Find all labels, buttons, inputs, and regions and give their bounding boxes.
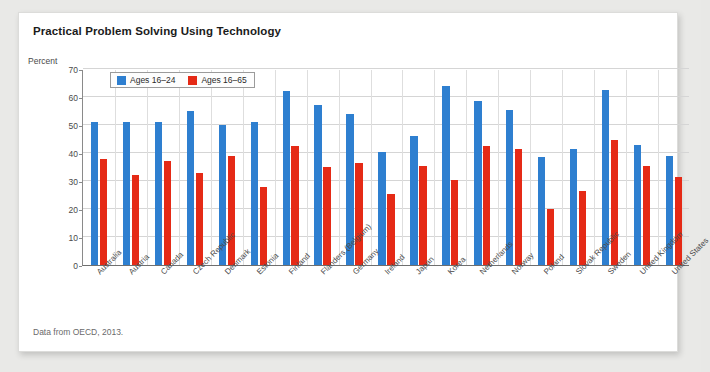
bar bbox=[260, 187, 267, 265]
legend-label: Ages 16–65 bbox=[201, 75, 246, 85]
y-axis-unit-label: Percent bbox=[28, 56, 57, 66]
bar bbox=[314, 105, 321, 265]
page-title: Practical Problem Solving Using Technolo… bbox=[33, 25, 281, 37]
y-axis-tick-label: 60 bbox=[69, 93, 78, 103]
bar bbox=[515, 149, 522, 265]
bar-group bbox=[562, 70, 594, 265]
bar-group bbox=[626, 70, 658, 265]
bar bbox=[155, 122, 162, 265]
bar bbox=[634, 145, 641, 265]
bar bbox=[123, 122, 130, 265]
bar-group bbox=[434, 70, 466, 265]
bar bbox=[283, 91, 290, 265]
bar-group bbox=[402, 70, 434, 265]
bar-group bbox=[275, 70, 307, 265]
plot-area bbox=[82, 70, 689, 266]
legend-swatch-red bbox=[188, 76, 197, 85]
y-axis-tick-labels: 010203040506070 bbox=[49, 70, 78, 266]
bar-group bbox=[307, 70, 339, 265]
bar bbox=[196, 173, 203, 265]
bar-group bbox=[115, 70, 147, 265]
chart-card: Practical Problem Solving Using Technolo… bbox=[18, 12, 678, 352]
y-axis-tick-label: 50 bbox=[69, 121, 78, 131]
bar bbox=[579, 191, 586, 265]
bar-group bbox=[466, 70, 498, 265]
bar bbox=[132, 175, 139, 265]
bar bbox=[547, 209, 554, 265]
y-axis-tick-label: 40 bbox=[69, 149, 78, 159]
bar-group bbox=[371, 70, 403, 265]
bar bbox=[643, 166, 650, 265]
bar bbox=[91, 122, 98, 265]
gridline-horizontal bbox=[83, 68, 689, 69]
bar bbox=[538, 157, 545, 265]
bar-group bbox=[147, 70, 179, 265]
bar bbox=[442, 86, 449, 265]
bar bbox=[228, 156, 235, 265]
chart-legend: Ages 16–24Ages 16–65 bbox=[110, 72, 255, 88]
y-axis-tick-label: 20 bbox=[69, 205, 78, 215]
legend-entry: Ages 16–65 bbox=[188, 75, 246, 85]
bar bbox=[451, 180, 458, 265]
y-axis-tick-mark bbox=[79, 266, 82, 267]
bar bbox=[611, 140, 618, 265]
bar-group bbox=[243, 70, 275, 265]
bar bbox=[164, 161, 171, 265]
bar bbox=[410, 136, 417, 265]
bar bbox=[483, 146, 490, 265]
bar bbox=[291, 146, 298, 265]
bar bbox=[187, 111, 194, 265]
legend-swatch-blue bbox=[117, 76, 126, 85]
bar bbox=[474, 101, 481, 265]
legend-label: Ages 16–24 bbox=[130, 75, 175, 85]
y-axis-tick-label: 70 bbox=[69, 65, 78, 75]
source-note: Data from OECD, 2013. bbox=[33, 327, 123, 337]
y-axis-tick-label: 30 bbox=[69, 177, 78, 187]
bar bbox=[355, 163, 362, 265]
bar bbox=[419, 166, 426, 265]
bar-group bbox=[498, 70, 530, 265]
bar-group bbox=[83, 70, 115, 265]
bar bbox=[378, 152, 385, 265]
legend-entry: Ages 16–24 bbox=[117, 75, 175, 85]
y-axis-tick-label: 10 bbox=[69, 233, 78, 243]
bar-group bbox=[179, 70, 211, 265]
bar-group bbox=[530, 70, 562, 265]
bar bbox=[323, 167, 330, 265]
y-axis-tick-label: 0 bbox=[73, 261, 78, 271]
bar bbox=[387, 194, 394, 265]
bar bbox=[570, 149, 577, 265]
bar bbox=[675, 177, 682, 265]
bar bbox=[100, 159, 107, 265]
bar bbox=[251, 122, 258, 265]
